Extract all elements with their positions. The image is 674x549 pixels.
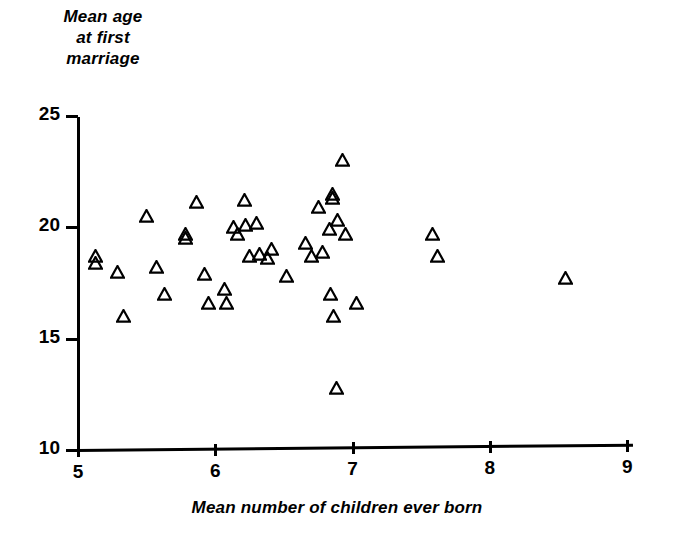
data-point-marker bbox=[197, 267, 212, 281]
data-point-marker bbox=[139, 209, 154, 223]
data-point-marker bbox=[335, 153, 350, 167]
y-tick-mark bbox=[66, 226, 78, 229]
data-point-marker bbox=[325, 191, 340, 205]
data-point-marker bbox=[323, 287, 338, 301]
y-tick-label: 15 bbox=[18, 326, 60, 348]
y-tick-label: 20 bbox=[18, 214, 60, 236]
y-tick-label: 10 bbox=[18, 437, 60, 459]
data-point-marker bbox=[338, 227, 353, 241]
data-point-marker bbox=[217, 282, 232, 296]
x-tick-label: 8 bbox=[470, 457, 510, 479]
data-point-marker bbox=[201, 296, 216, 310]
y-tick-mark bbox=[66, 115, 78, 118]
data-point-marker bbox=[110, 265, 125, 279]
data-point-marker bbox=[189, 195, 204, 209]
x-tick-label: 5 bbox=[58, 461, 98, 483]
x-tick-label: 9 bbox=[607, 456, 647, 478]
x-tick-mark bbox=[77, 445, 80, 457]
data-point-marker bbox=[157, 287, 172, 301]
data-point-marker bbox=[558, 271, 573, 285]
data-point-marker bbox=[315, 245, 330, 259]
x-tick-mark bbox=[352, 442, 355, 454]
data-point-marker bbox=[330, 213, 345, 227]
data-point-marker bbox=[249, 216, 264, 230]
data-point-marker bbox=[349, 296, 364, 310]
data-point-marker bbox=[88, 256, 103, 270]
data-point-marker bbox=[264, 242, 279, 256]
data-point-marker bbox=[298, 236, 313, 250]
data-point-marker bbox=[149, 260, 164, 274]
data-point-marker bbox=[430, 249, 445, 263]
data-point-marker bbox=[425, 227, 440, 241]
data-point-marker bbox=[329, 381, 344, 395]
scatter-plot-figure: Mean age at first marriage 10152025 5678… bbox=[0, 0, 674, 549]
x-axis-line bbox=[77, 444, 633, 452]
x-axis-title: Mean number of children ever born bbox=[0, 498, 674, 518]
plot-area: 10152025 56789 bbox=[0, 0, 674, 549]
x-tick-label: 6 bbox=[195, 460, 235, 482]
y-tick-mark bbox=[66, 338, 78, 341]
data-point-marker bbox=[279, 269, 294, 283]
data-point-marker bbox=[237, 193, 252, 207]
x-tick-label: 7 bbox=[333, 458, 373, 480]
y-tick-label: 25 bbox=[18, 103, 60, 125]
x-tick-mark bbox=[626, 440, 629, 452]
data-point-marker bbox=[178, 231, 193, 245]
data-point-marker bbox=[219, 296, 234, 310]
x-tick-mark bbox=[214, 444, 217, 456]
y-axis-line bbox=[77, 117, 80, 452]
data-point-marker bbox=[116, 309, 131, 323]
data-point-marker bbox=[326, 309, 341, 323]
x-tick-mark bbox=[489, 441, 492, 453]
